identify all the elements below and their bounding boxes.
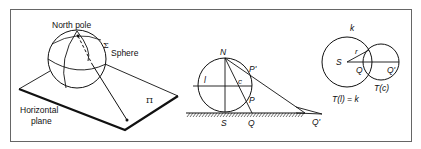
projection-ray <box>92 64 127 120</box>
label-P: P <box>249 95 255 105</box>
plane-back-edges <box>19 71 50 89</box>
stereographic-projection-figure: North pole Σ Sphere Π Horizontal plane <box>0 0 421 149</box>
label-pi: Π <box>146 96 153 105</box>
label-S: S <box>221 118 227 128</box>
panel-image-circles: k r S Q Q' T(l) = k T(c) <box>296 23 399 114</box>
projected-point <box>126 119 129 122</box>
line-NQprime <box>225 58 305 113</box>
label-r: r <box>355 47 358 56</box>
label-T-l-equals-k: T(l) = k <box>332 94 359 104</box>
label-sphere: Sphere <box>111 48 139 58</box>
label-north-pole: North pole <box>52 20 91 30</box>
label-c: c <box>238 77 242 86</box>
label-k: k <box>350 23 355 33</box>
north-pole-point <box>77 35 80 38</box>
label-S-center: S <box>336 57 342 67</box>
panel-sphere-on-plane: North pole Σ Sphere Π Horizontal plane <box>19 20 178 130</box>
label-P-prime: P' <box>249 64 257 74</box>
label-Q: Q <box>248 118 255 128</box>
label-Q-prime-image: Q' <box>387 65 396 75</box>
label-T-c: T(c) <box>374 83 389 93</box>
label-Q-prime: Q' <box>312 117 321 127</box>
label-l: l <box>204 75 207 85</box>
label-N: N <box>220 47 227 57</box>
plane-back-edge-right <box>105 64 178 96</box>
label-sigma: Σ <box>103 41 109 50</box>
label-plane: plane <box>31 116 52 126</box>
label-Q-image: Q <box>356 65 363 75</box>
label-horizontal: Horizontal <box>20 105 58 115</box>
panel-cross-section: N P' l c P S Q Q' <box>186 47 321 128</box>
ground-hatching <box>187 113 304 117</box>
radius-r <box>347 50 369 62</box>
